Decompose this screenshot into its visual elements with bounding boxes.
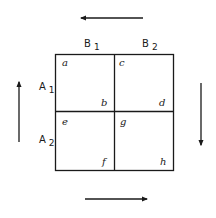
diagram-svg xyxy=(0,0,216,218)
cell-a2b2-top-left: g xyxy=(120,117,126,127)
column-header-b2-sub: 2 xyxy=(152,42,158,52)
row-header-a1-main: A xyxy=(39,81,46,92)
column-header-b2: B2 xyxy=(142,39,158,49)
row-header-a2-sub: 2 xyxy=(49,138,55,148)
grid xyxy=(56,55,174,171)
row-header-a2: A2 xyxy=(39,135,55,145)
cell-a2b1-bottom-right: f xyxy=(102,157,106,167)
cell-a2b2-bottom-right: h xyxy=(160,157,166,167)
column-header-b2-main: B xyxy=(142,38,149,49)
row-header-a1: A1 xyxy=(39,82,55,92)
column-header-b1-sub: 1 xyxy=(94,42,100,52)
diagram: B1 B2 A1 A2 a b c d e f g h xyxy=(0,0,216,218)
cell-a2b1-top-left: e xyxy=(62,117,68,127)
row-header-a2-main: A xyxy=(39,134,46,145)
column-header-b1: B1 xyxy=(84,39,100,49)
cell-a1b2-top-left: c xyxy=(119,58,125,68)
column-header-b1-main: B xyxy=(84,38,91,49)
row-header-a1-sub: 1 xyxy=(49,85,55,95)
cell-a1b2-bottom-right: d xyxy=(159,98,165,108)
cell-a1b1-top-left: a xyxy=(62,58,68,68)
cell-a1b1-bottom-right: b xyxy=(101,98,107,108)
